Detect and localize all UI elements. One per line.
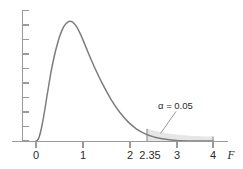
alpha-tail-shaded-region <box>147 129 213 141</box>
alpha-annotation-label: α = 0.05 <box>158 100 193 111</box>
f-distribution-figure: α = 0.05 0 1 2 2.35 3 4 F <box>0 0 243 169</box>
x-tick-label-2-35: 2.35 <box>139 149 160 161</box>
x-tick-label-3: 3 <box>174 149 180 161</box>
x-axis-ticks <box>36 142 213 148</box>
alpha-leader-line <box>161 112 177 134</box>
x-tick-label-0: 0 <box>33 149 39 161</box>
x-tick-label-4: 4 <box>210 149 216 161</box>
x-tick-label-2: 2 <box>127 149 133 161</box>
x-tick-label-1: 1 <box>80 149 86 161</box>
f-density-curve <box>36 21 213 141</box>
chart-canvas: α = 0.05 0 1 2 2.35 3 4 F <box>0 0 243 169</box>
x-axis-title: F <box>226 149 235 161</box>
y-axis-ticks <box>23 11 29 142</box>
